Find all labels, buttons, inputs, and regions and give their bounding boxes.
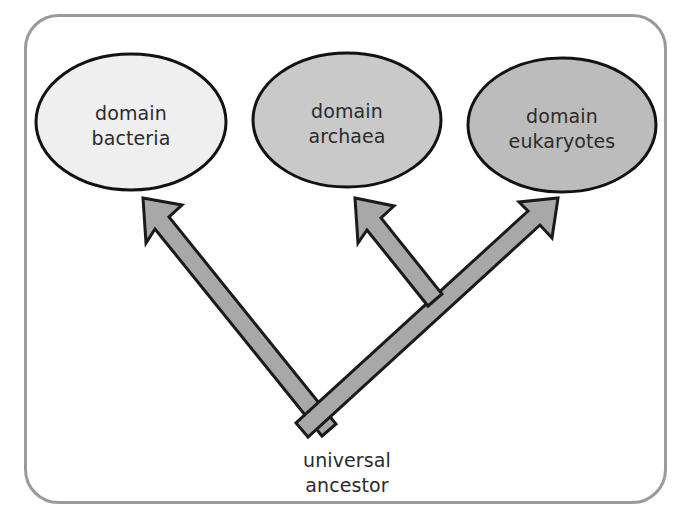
domain-bacteria-label-line1: domain [95,102,167,124]
domain-archaea-label-line1: domain [311,100,383,122]
figure-root: domain bacteria domain archaea domain eu… [0,0,691,522]
domain-eukaryotes-label-line2: eukaryotes [509,130,616,152]
domain-archaea-label-line2: archaea [308,125,385,147]
universal-ancestor-line2: ancestor [305,474,388,496]
domain-bacteria-node[interactable]: domain bacteria [36,54,226,190]
domain-archaea-node[interactable]: domain archaea [253,53,441,187]
domain-eukaryotes-label-line1: domain [526,105,598,127]
domain-eukaryotes-node[interactable]: domain eukaryotes [468,58,656,192]
tree-of-life-diagram: domain bacteria domain archaea domain eu… [0,0,691,522]
domain-bacteria-label-line2: bacteria [92,127,171,149]
universal-ancestor-line1: universal [303,449,391,471]
